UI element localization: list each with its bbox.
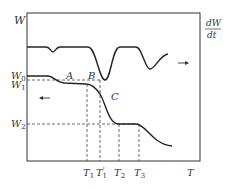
guide-lines — [27, 80, 139, 161]
point-label-c: C — [111, 91, 119, 102]
temp-label-t2: T2 — [114, 167, 125, 180]
svg-text:W2: W2 — [11, 118, 26, 131]
temp-label-t1: T1 — [83, 167, 94, 180]
svg-text:T2: T2 — [114, 167, 125, 180]
svg-text:T3: T3 — [134, 167, 145, 180]
weight-label-w2: W2 — [11, 118, 26, 131]
plot-frame — [27, 13, 200, 161]
x-axis-label: T — [187, 167, 195, 178]
tga-diagram: W dW dt T W0 W1 W2 A B C T1 T'1 T2 T3 — [0, 0, 235, 189]
y-axis-label: W — [14, 14, 27, 27]
svg-text:T'1: T'1 — [96, 166, 107, 180]
point-label-b: B — [87, 70, 95, 81]
dtg-axis-label-numerator: dW — [206, 18, 222, 28]
tg-curve — [27, 76, 172, 146]
arrow-left-icon — [39, 96, 50, 100]
svg-text:T1: T1 — [83, 167, 94, 180]
point-label-a: A — [65, 70, 73, 81]
dtg-axis-label-denominator: dt — [207, 30, 217, 40]
arrow-right-icon — [178, 61, 189, 65]
temp-label-t1-prime: T'1 — [96, 166, 107, 180]
dtg-curve — [27, 47, 168, 80]
temp-label-t3: T3 — [134, 167, 145, 180]
